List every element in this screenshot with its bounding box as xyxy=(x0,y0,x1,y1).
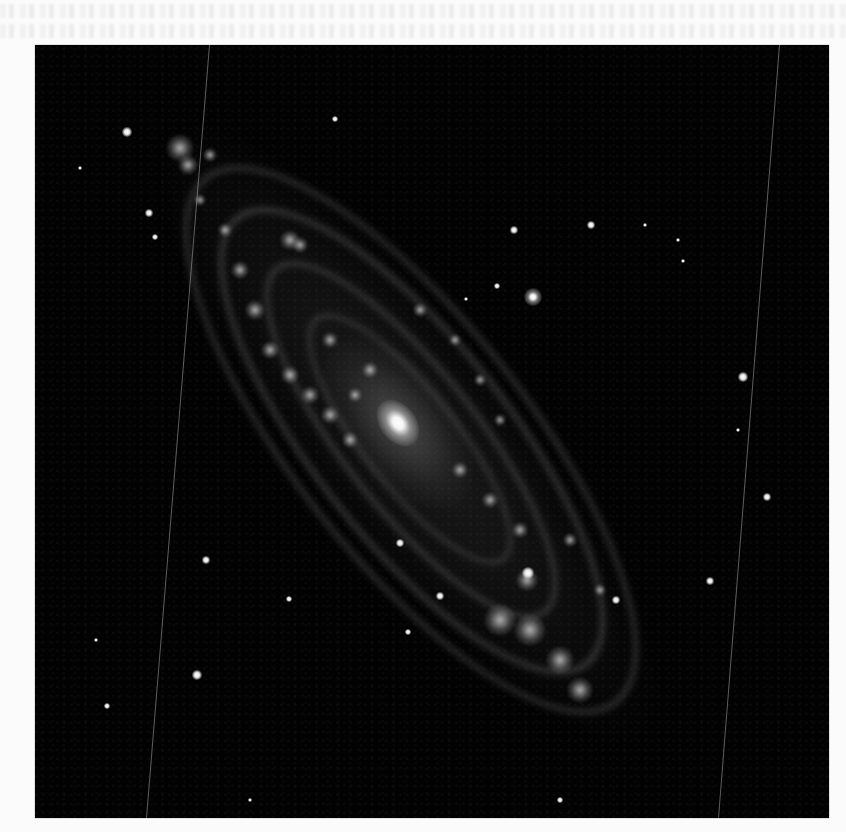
star xyxy=(405,629,411,635)
star xyxy=(676,238,680,242)
star xyxy=(202,556,210,564)
bleed-through-text-line-2 xyxy=(0,24,846,38)
knot xyxy=(342,432,358,448)
star xyxy=(248,798,252,802)
star xyxy=(192,670,202,680)
star xyxy=(464,297,468,301)
knot xyxy=(292,237,308,253)
star xyxy=(145,209,153,217)
star xyxy=(286,596,292,602)
knot xyxy=(514,614,546,646)
star xyxy=(738,372,748,382)
knot xyxy=(484,604,516,636)
knot xyxy=(245,300,265,320)
knot xyxy=(413,303,427,317)
knot xyxy=(301,386,319,404)
star xyxy=(587,221,595,229)
knot xyxy=(261,341,279,359)
knot xyxy=(567,677,593,703)
star xyxy=(612,596,620,604)
galaxy-image-frame xyxy=(35,45,829,818)
star xyxy=(396,539,404,547)
knot xyxy=(512,522,528,538)
star xyxy=(522,567,534,579)
star xyxy=(763,493,771,501)
star xyxy=(94,638,98,642)
star xyxy=(494,283,500,289)
star xyxy=(104,703,110,709)
knot xyxy=(218,223,232,237)
star xyxy=(78,166,82,170)
knot xyxy=(322,332,338,348)
companion-galaxy-m32 xyxy=(524,288,542,306)
knot xyxy=(494,414,506,426)
knot xyxy=(281,366,299,384)
knot xyxy=(362,362,378,378)
knot xyxy=(348,388,362,402)
knot xyxy=(449,334,461,346)
knot xyxy=(178,155,198,175)
knot xyxy=(563,533,577,547)
knot xyxy=(321,406,339,424)
star xyxy=(681,259,685,263)
star xyxy=(436,592,444,600)
knot xyxy=(482,492,498,508)
knot xyxy=(452,462,468,478)
star xyxy=(510,226,518,234)
bleed-through-text-line-1 xyxy=(0,4,846,18)
knot xyxy=(203,148,217,162)
star xyxy=(643,223,647,227)
star xyxy=(332,116,338,122)
knot xyxy=(594,584,606,596)
knot xyxy=(474,374,486,386)
knot xyxy=(231,261,249,279)
star xyxy=(152,234,158,240)
star xyxy=(122,127,132,137)
knot xyxy=(546,646,574,674)
star xyxy=(557,797,563,803)
star xyxy=(706,577,714,585)
star xyxy=(736,428,740,432)
